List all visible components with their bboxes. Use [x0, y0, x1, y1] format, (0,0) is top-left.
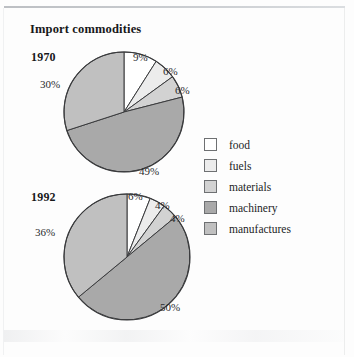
scan-noise: [4, 330, 344, 342]
legend-swatch-fuels: [204, 159, 217, 172]
figure-root: Import commodities 1970 9% 6% 6% 49% 30%…: [0, 0, 354, 357]
legend-label-food: food: [229, 139, 250, 151]
legend-item-fuels: fuels: [204, 155, 291, 176]
page-right-edge: [344, 8, 345, 355]
page-top-rule: [4, 6, 345, 8]
legend-item-materials: materials: [204, 176, 291, 197]
legend-item-manufactures: manufactures: [204, 218, 291, 239]
pie-1992-label-manufactures: 36%: [35, 226, 55, 238]
pie-1970-label-machinery: 49%: [139, 165, 159, 177]
pie-1970-label-materials: 6%: [175, 84, 190, 96]
pie-1992-label-materials: 4%: [170, 212, 185, 224]
legend-label-fuels: fuels: [229, 160, 251, 172]
legend-label-manufactures: manufactures: [229, 223, 291, 235]
pie-1970-label-food: 9%: [133, 51, 148, 63]
legend-label-materials: materials: [229, 181, 271, 193]
page-title: Import commodities: [30, 22, 141, 37]
page-left-edge: [3, 8, 4, 355]
pie-1992-year-label: 1992: [31, 190, 56, 205]
pie-1970-label-manufactures: 30%: [40, 78, 60, 90]
legend-item-food: food: [204, 134, 291, 155]
legend-swatch-machinery: [204, 201, 217, 214]
legend-label-machinery: machinery: [229, 202, 278, 214]
pie-1992-label-machinery: 50%: [160, 301, 180, 313]
pie-1970-label-fuels: 6%: [163, 65, 178, 77]
legend-swatch-manufactures: [204, 222, 217, 235]
pie-1970-year-label: 1970: [31, 50, 56, 65]
pie-1992-label-fuels: 4%: [155, 199, 170, 211]
legend-swatch-food: [204, 138, 217, 151]
chart-legend: food fuels materials machinery manufactu…: [204, 134, 291, 239]
legend-swatch-materials: [204, 180, 217, 193]
legend-item-machinery: machinery: [204, 197, 291, 218]
pie-1992-label-food: 6%: [128, 190, 143, 202]
